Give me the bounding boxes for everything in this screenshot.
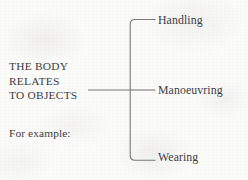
branch-label-handling: Handling (158, 14, 203, 27)
diagram-canvas: THE BODY RELATES TO OBJECTS For example:… (0, 0, 248, 180)
stem-line-3: TO OBJECTS (9, 88, 104, 103)
stem-note: For example: (9, 126, 71, 140)
stem-line-2: RELATES (9, 74, 104, 89)
branch-label-wearing: Wearing (158, 151, 198, 164)
branch-label-manoeuvring: Manoeuvring (158, 84, 223, 97)
stem-text-block: THE BODY RELATES TO OBJECTS (9, 59, 104, 103)
stem-line-1: THE BODY (9, 59, 104, 74)
